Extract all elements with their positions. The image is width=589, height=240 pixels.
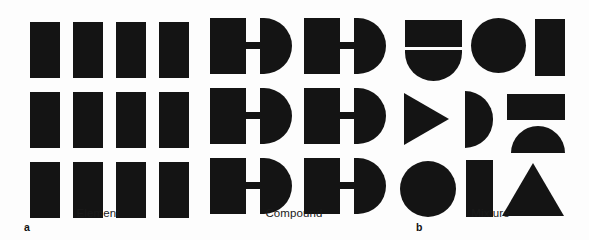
particle-element-atom xyxy=(30,92,60,148)
particle-dome-pointing-right xyxy=(465,91,493,148)
particle-element-atom xyxy=(73,92,103,148)
panel-element: Element a xyxy=(0,0,196,240)
compound-atom-dome xyxy=(354,88,386,144)
particle-compound-molecule xyxy=(304,18,386,74)
particle-triangle-pointing-right xyxy=(404,93,449,145)
compound-atom-dome xyxy=(260,88,292,144)
compound-particle-stage xyxy=(196,8,392,204)
particle-element-atom xyxy=(159,92,189,148)
particulate-representation-figure: Element a Compound b Mixture c xyxy=(0,0,589,240)
compound-atom-rectangle xyxy=(304,18,340,74)
particle-element-atom xyxy=(30,22,60,78)
mixture-particle-stage xyxy=(392,8,589,204)
panel-letter-a: a xyxy=(24,221,30,233)
compound-atom-dome xyxy=(260,18,292,74)
particle-element-atom xyxy=(116,92,146,148)
panel-compound: Compound b xyxy=(196,0,392,240)
particle-element-atom xyxy=(73,22,103,78)
compound-atom-rectangle xyxy=(210,18,246,74)
compound-atom-dome xyxy=(354,18,386,74)
particle-horizontal-rectangle xyxy=(507,94,565,120)
panel-caption-mixture: Mixture xyxy=(392,206,589,220)
particle-vertical-rectangle xyxy=(535,19,565,76)
particle-dome-pointing-up xyxy=(511,126,565,153)
panel-caption-element: Element xyxy=(0,206,196,220)
particle-element-atom xyxy=(116,22,146,78)
panel-mixture: Mixture c xyxy=(392,0,589,240)
particle-horizontal-rectangle xyxy=(405,20,462,47)
particle-compound-molecule xyxy=(210,18,292,74)
particle-circle xyxy=(471,18,526,73)
compound-atom-rectangle xyxy=(304,88,340,144)
panel-caption-compound: Compound xyxy=(196,206,392,220)
particle-compound-molecule xyxy=(304,88,386,144)
particle-compound-molecule xyxy=(210,88,292,144)
element-particle-stage xyxy=(0,8,196,204)
compound-atom-rectangle xyxy=(210,88,246,144)
particle-element-atom xyxy=(159,22,189,78)
particle-dome-pointing-down xyxy=(405,50,462,81)
